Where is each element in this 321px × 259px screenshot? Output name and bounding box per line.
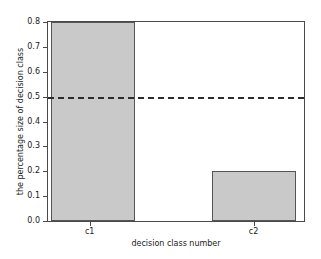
ytick-label-3: 0.3	[27, 142, 40, 150]
ytick-mark-6	[43, 72, 48, 73]
ytick-mark-1	[43, 196, 48, 197]
ytick-label-6: 0.6	[27, 68, 40, 76]
ytick-label-2: 0.2	[27, 167, 40, 175]
ytick-label-5: 0.5	[27, 93, 40, 101]
ytick-label-4: 0.4	[27, 118, 40, 126]
bar-c2[interactable]	[212, 171, 296, 221]
xtick-label-c1: c1	[85, 228, 95, 236]
x-axis-label: decision class number	[47, 240, 305, 248]
ytick-label-0: 0.0	[27, 217, 40, 225]
ytick-mark-7	[43, 47, 48, 48]
ytick-mark-8	[43, 22, 48, 23]
threshold-dashed-line	[48, 97, 304, 99]
ytick-mark-4	[43, 122, 48, 123]
bar-c1[interactable]	[51, 22, 134, 221]
ytick-mark-3	[43, 146, 48, 147]
xtick-mark-c2	[254, 221, 255, 226]
ytick-label-1: 0.1	[27, 192, 40, 200]
y-axis-label: the percentage size of decision class	[14, 21, 28, 222]
ytick-mark-2	[43, 171, 48, 172]
plot-area: 0.0 0.1 0.2 0.3 0.4 0.5 0.6 0.7 0.8 c1 c…	[47, 21, 305, 222]
bar-chart-figure: 0.0 0.1 0.2 0.3 0.4 0.5 0.6 0.7 0.8 c1 c…	[0, 0, 321, 259]
xtick-label-c2: c2	[249, 228, 259, 236]
ytick-mark-0	[43, 221, 48, 222]
xtick-mark-c1	[90, 221, 91, 226]
ytick-label-7: 0.7	[27, 43, 40, 51]
ytick-label-8: 0.8	[27, 18, 40, 26]
ytick-mark-5	[43, 97, 48, 98]
